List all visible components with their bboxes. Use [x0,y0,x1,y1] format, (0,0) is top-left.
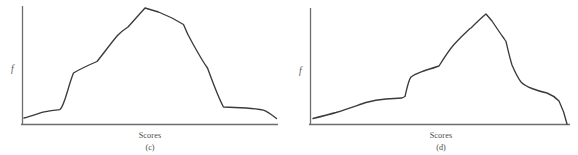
frequency-polygon-d [313,14,567,124]
panel-caption-c: (c) [145,143,154,152]
panel-caption-d: (d) [436,143,446,152]
y-axis-label-c: f [11,64,15,74]
figure-container: f Scores (c) f Scores (d) [0,0,578,155]
x-axis-label-c: Scores [139,131,162,140]
y-axis-label-d: f [299,66,303,76]
chart-panel-d: f Scores (d) [289,0,578,155]
frequency-polygon-c [24,8,277,119]
chart-panel-c: f Scores (c) [0,0,289,155]
chart-svg-d: f Scores (d) [289,0,578,155]
chart-svg-c: f Scores (c) [0,0,289,155]
x-axis-label-d: Scores [430,131,453,140]
